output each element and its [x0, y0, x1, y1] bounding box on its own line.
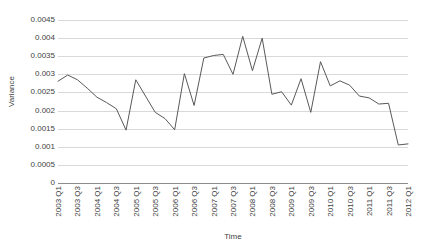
- y-tick-label: 0.0045: [31, 16, 55, 24]
- x-tick-label: 2010 Q1: [327, 186, 335, 217]
- y-tick-label: 0.002: [35, 107, 55, 115]
- x-tick-label: 2009 Q3: [308, 186, 316, 217]
- variance-time-line-chart: Variance 0.00450.0040.00350.0030.00250.0…: [0, 0, 424, 250]
- x-tick-label: 2006 Q1: [172, 186, 180, 217]
- plot-area: [58, 20, 408, 183]
- series-line: [58, 20, 408, 183]
- x-tick-label: 2008 Q3: [269, 186, 277, 217]
- x-axis-tick-labels: 2003 Q12003 Q32004 Q12004 Q32005 Q12005 …: [58, 184, 408, 230]
- y-tick-label: 0.001: [35, 143, 55, 151]
- x-tick-label: 2011 Q3: [386, 186, 394, 216]
- x-tick-label: 2010 Q3: [347, 186, 355, 217]
- x-tick-label: 2003 Q3: [74, 186, 82, 217]
- x-tick-label: 2006 Q3: [191, 186, 199, 217]
- x-axis-title: Time: [58, 232, 408, 241]
- x-tick-label: 2004 Q3: [113, 186, 121, 217]
- x-tick-label: 2007 Q3: [230, 186, 238, 217]
- x-tick-label: 2009 Q1: [288, 186, 296, 217]
- y-tick-label: 0.0035: [31, 52, 55, 60]
- x-tick-label: 2012 Q1: [405, 186, 413, 217]
- x-tick-label: 2005 Q1: [133, 186, 141, 217]
- y-tick-label: 0.003: [35, 70, 55, 78]
- x-tick-label: 2005 Q3: [152, 186, 160, 217]
- x-tick-label: 2011 Q1: [366, 186, 374, 216]
- x-tick-label: 2004 Q1: [94, 186, 102, 217]
- y-axis-tick-labels: 0.00450.0040.00350.0030.00250.0020.00150…: [16, 0, 58, 190]
- series-polyline: [58, 36, 408, 145]
- x-tick-label: 2008 Q1: [249, 186, 257, 217]
- x-tick-label: 2003 Q1: [55, 186, 63, 217]
- x-tick-label: 2007 Q1: [211, 186, 219, 217]
- y-tick-label: 0.004: [35, 34, 55, 42]
- y-axis-title-label: Variance: [7, 76, 16, 107]
- y-tick-label: 0.0005: [31, 161, 55, 169]
- y-tick-label: 0.0015: [31, 125, 55, 133]
- y-tick-label: 0.0025: [31, 88, 55, 96]
